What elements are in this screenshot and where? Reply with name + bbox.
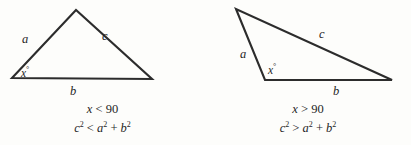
obtuse-caption-operator: >: [301, 102, 308, 116]
obtuse-triangle-figure: a c b x° x > 90 c2 > a2 + b2: [205, 0, 411, 145]
obtuse-side-b-label: b: [333, 85, 339, 98]
obtuse-degree-symbol: °: [273, 62, 276, 71]
acute-caption-operator: <: [96, 102, 103, 116]
obtuse-rel-plus: +: [316, 121, 323, 135]
acute-triangle-outline: [12, 10, 152, 79]
acute-rel-right-second-exp: 2: [127, 120, 131, 129]
acute-angle-x-label: x°: [21, 66, 29, 79]
acute-caption-value: 90: [106, 102, 119, 116]
acute-degree-symbol: °: [26, 65, 29, 74]
acute-side-a-label: a: [22, 33, 28, 46]
obtuse-caption-value: 90: [311, 102, 324, 116]
obtuse-side-a-label: a: [240, 48, 246, 61]
triangle-comparison-figure: a c b x° x < 90 c2 < a2 + b2 a c b x° x …: [0, 0, 411, 145]
obtuse-rel-right-second-exp: 2: [332, 120, 336, 129]
obtuse-relation-caption: c2 > a2 + b2: [205, 122, 411, 135]
obtuse-side-c-label: c: [319, 28, 325, 41]
acute-side-b-label: b: [70, 85, 76, 98]
obtuse-triangle-outline: [236, 9, 392, 80]
obtuse-angle-x-label: x°: [268, 63, 276, 76]
obtuse-triangle-drawing: [205, 0, 411, 100]
acute-side-c-label: c: [102, 30, 108, 43]
acute-relation-caption: c2 < a2 + b2: [0, 122, 205, 135]
acute-angle-condition-caption: x < 90: [0, 103, 205, 116]
acute-triangle-drawing: [0, 0, 205, 100]
acute-rel-operator: <: [87, 121, 94, 135]
acute-triangle-figure: a c b x° x < 90 c2 < a2 + b2: [0, 0, 205, 145]
obtuse-angle-condition-caption: x > 90: [205, 103, 411, 116]
